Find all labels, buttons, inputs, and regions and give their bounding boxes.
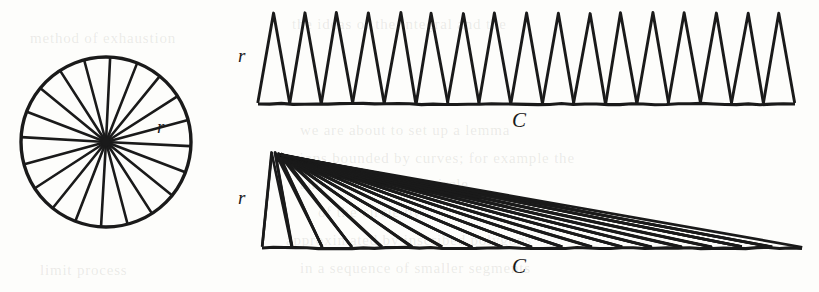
strip-triangle bbox=[511, 13, 542, 103]
strip-triangle bbox=[542, 13, 573, 103]
triangle-fan-panel bbox=[262, 152, 802, 249]
fan-radius-label: r bbox=[238, 188, 245, 207]
circle-radius-line bbox=[53, 142, 106, 208]
circle-radius-line bbox=[106, 96, 177, 142]
strip-triangle bbox=[353, 13, 384, 103]
strip-triangle bbox=[258, 13, 290, 103]
strip-triangle bbox=[416, 13, 448, 103]
circle-radius-line bbox=[106, 77, 159, 142]
strip-triangle bbox=[574, 14, 606, 104]
strip-circumference-label: C bbox=[512, 110, 526, 131]
strip-triangle bbox=[321, 13, 352, 104]
circle-center-dot bbox=[102, 138, 111, 147]
strip-triangle bbox=[668, 13, 700, 104]
strip-triangle bbox=[384, 12, 415, 103]
strip-triangle bbox=[637, 13, 668, 104]
circle-radius-line bbox=[106, 142, 127, 223]
circle-radius-line bbox=[41, 88, 106, 142]
circle-radius-line bbox=[36, 142, 106, 188]
strip-triangle bbox=[479, 13, 511, 103]
triangle-strip-group bbox=[258, 12, 795, 103]
strip-triangle bbox=[290, 13, 321, 103]
figure-root: the ideas of the integral and thewe are … bbox=[0, 0, 819, 292]
fan-circumference-label: C bbox=[512, 256, 526, 277]
triangle-fan-group bbox=[262, 152, 802, 247]
strip-radius-label: r bbox=[238, 46, 245, 65]
strip-triangle bbox=[763, 13, 794, 103]
strip-triangle bbox=[731, 13, 763, 103]
circle-radius-line bbox=[106, 142, 172, 195]
circle-radius-line bbox=[24, 142, 106, 164]
triangle-fan-baseline bbox=[262, 247, 802, 248]
circle-radius-line bbox=[106, 58, 110, 142]
geometry-figure bbox=[0, 0, 819, 292]
strip-triangle bbox=[700, 13, 731, 103]
circle-radius-line bbox=[106, 120, 187, 142]
circle-radius-line bbox=[84, 61, 106, 142]
triangle-strip-panel bbox=[258, 12, 795, 104]
circle-radius-label: r bbox=[157, 117, 164, 136]
circle-radius-line bbox=[106, 64, 137, 142]
fan-edge-line bbox=[262, 152, 272, 247]
sectored-circle-panel bbox=[21, 57, 191, 227]
triangle-strip-baseline bbox=[258, 103, 795, 104]
fan-edge-line bbox=[281, 155, 772, 247]
circle-radius-line bbox=[106, 142, 151, 213]
circle-radius-line bbox=[60, 71, 106, 142]
fan-edge-line bbox=[281, 155, 472, 247]
strip-triangle bbox=[606, 13, 637, 104]
strip-triangle bbox=[448, 14, 479, 104]
